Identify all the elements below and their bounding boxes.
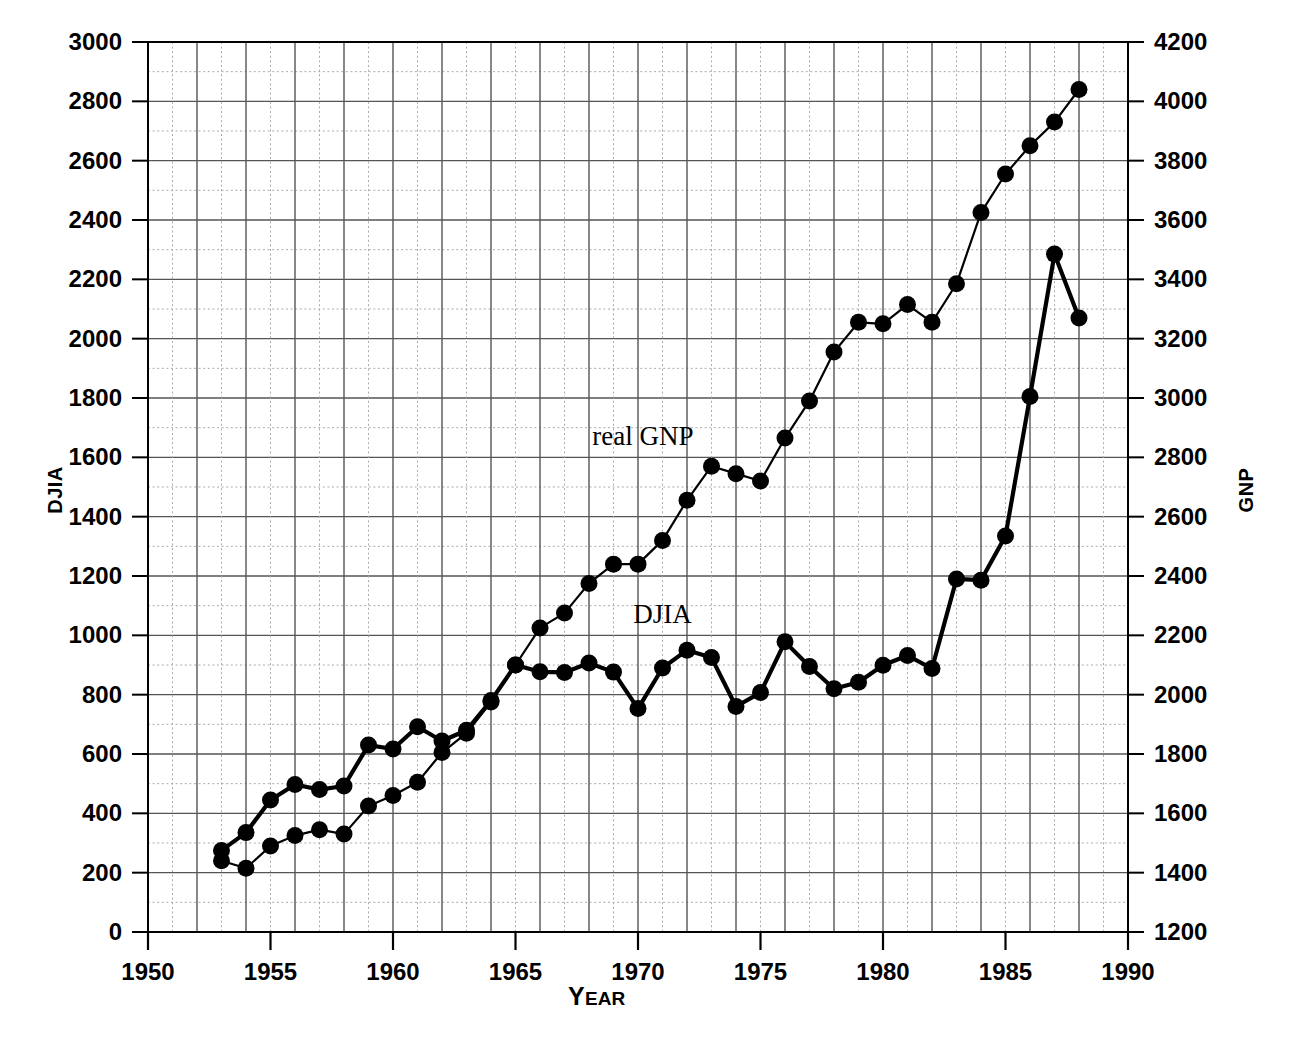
data-point-marker: [213, 842, 230, 859]
right-tick-label: 3200: [1154, 325, 1207, 352]
data-point-marker: [1022, 388, 1039, 405]
right-tick-label: 3600: [1154, 206, 1207, 233]
data-point-marker: [850, 314, 867, 331]
right-tick-label: 2200: [1154, 621, 1207, 648]
data-point-marker: [581, 575, 598, 592]
x-tick-label: 1975: [734, 958, 787, 985]
data-point-marker: [311, 821, 328, 838]
right-tick-label: 2000: [1154, 681, 1207, 708]
right-tick-label: 4200: [1154, 28, 1207, 55]
right-tick-label: 3400: [1154, 265, 1207, 292]
data-point-marker: [924, 660, 941, 677]
data-point-marker: [997, 166, 1014, 183]
data-point-marker: [899, 296, 916, 313]
data-point-marker: [1022, 137, 1039, 154]
data-point-marker: [1071, 81, 1088, 98]
data-point-marker: [311, 781, 328, 798]
left-tick-label: 2200: [69, 265, 122, 292]
left-tick-label: 3000: [69, 28, 122, 55]
data-point-marker: [654, 532, 671, 549]
left-tick-label: 1800: [69, 384, 122, 411]
data-point-marker: [801, 658, 818, 675]
left-tick-label: 1000: [69, 621, 122, 648]
chart-figure: 0200400600800100012001400160018002000220…: [0, 0, 1302, 1057]
x-tick-label: 1970: [611, 958, 664, 985]
grid-major-vertical: [148, 42, 1128, 932]
x-axis-tick-labels: 195019551960196519701975198019851990: [121, 958, 1154, 985]
data-point-marker: [630, 556, 647, 573]
data-point-marker: [262, 837, 279, 854]
data-point-marker: [360, 737, 377, 754]
data-point-marker: [434, 732, 451, 749]
figure-background: [0, 0, 1302, 1057]
data-point-marker: [556, 664, 573, 681]
data-point-marker: [826, 344, 843, 361]
data-point-marker: [850, 674, 867, 691]
right-tick-label: 2400: [1154, 562, 1207, 589]
data-point-marker: [458, 722, 475, 739]
data-point-marker: [287, 827, 304, 844]
data-point-marker: [238, 860, 255, 877]
right-tick-label: 1400: [1154, 859, 1207, 886]
series-annotation-label: DJIA: [633, 599, 692, 629]
data-point-marker: [654, 659, 671, 676]
right-tick-label: 2600: [1154, 503, 1207, 530]
data-point-marker: [1046, 114, 1063, 131]
data-point-marker: [924, 314, 941, 331]
left-tick-label: 600: [82, 740, 122, 767]
right-axis-title: GNP: [1235, 468, 1257, 513]
left-tick-label: 1600: [69, 443, 122, 470]
data-point-marker: [948, 570, 965, 587]
data-point-marker: [507, 657, 524, 674]
left-axis-title: DJIA: [44, 466, 66, 514]
left-tick-label: 0: [109, 918, 122, 945]
x-tick-label: 1990: [1101, 958, 1154, 985]
data-point-marker: [875, 315, 892, 332]
x-axis-title-rest: EAR: [585, 988, 625, 1009]
data-point-marker: [238, 824, 255, 841]
data-point-marker: [679, 642, 696, 659]
data-point-marker: [360, 797, 377, 814]
data-point-marker: [483, 692, 500, 709]
data-point-marker: [532, 619, 549, 636]
data-point-marker: [605, 664, 622, 681]
left-tick-label: 2000: [69, 325, 122, 352]
data-point-marker: [752, 473, 769, 490]
x-tick-label: 1960: [366, 958, 419, 985]
right-tick-label: 3800: [1154, 147, 1207, 174]
x-tick-label: 1955: [244, 958, 297, 985]
right-tick-label: 1200: [1154, 918, 1207, 945]
data-point-marker: [385, 787, 402, 804]
data-point-marker: [801, 392, 818, 409]
x-tick-label: 1950: [121, 958, 174, 985]
data-point-marker: [409, 718, 426, 735]
data-point-marker: [826, 680, 843, 697]
data-point-marker: [777, 633, 794, 650]
data-point-marker: [899, 647, 916, 664]
data-point-marker: [703, 458, 720, 475]
left-tick-label: 400: [82, 799, 122, 826]
data-point-marker: [556, 605, 573, 622]
left-tick-label: 1400: [69, 503, 122, 530]
x-tick-label: 1965: [489, 958, 542, 985]
data-point-marker: [605, 556, 622, 573]
left-tick-label: 2800: [69, 87, 122, 114]
data-point-marker: [728, 465, 745, 482]
data-point-marker: [973, 204, 990, 221]
series-annotation-label: real GNP: [592, 421, 693, 451]
data-point-marker: [581, 654, 598, 671]
data-point-marker: [385, 740, 402, 757]
right-tick-label: 3000: [1154, 384, 1207, 411]
right-tick-label: 2800: [1154, 443, 1207, 470]
data-point-marker: [948, 275, 965, 292]
x-axis-title-initial: Y: [568, 982, 585, 1010]
right-tick-label: 1600: [1154, 799, 1207, 826]
data-point-marker: [875, 657, 892, 674]
data-point-marker: [679, 492, 696, 509]
left-tick-label: 2400: [69, 206, 122, 233]
chart-svg: 0200400600800100012001400160018002000220…: [0, 0, 1302, 1057]
data-point-marker: [777, 430, 794, 447]
data-point-marker: [336, 826, 353, 843]
data-point-marker: [262, 791, 279, 808]
x-tick-label: 1980: [856, 958, 909, 985]
